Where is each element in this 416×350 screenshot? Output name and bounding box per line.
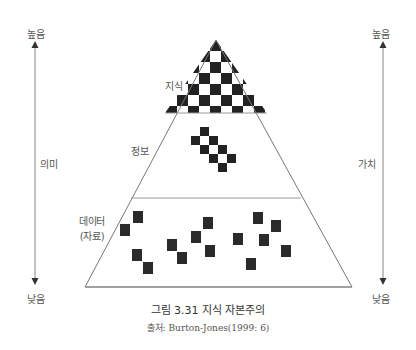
- left-axis-arrow: [32, 41, 39, 285]
- data-pattern: [120, 211, 291, 274]
- figure-caption: 그림 3.31 지식 자본주의: [0, 301, 416, 317]
- right-axis-top-label: 높음: [372, 26, 389, 41]
- right-axis-middle-label: 가치: [358, 156, 375, 171]
- layer-label-information: 정보: [131, 143, 148, 158]
- left-axis-middle-label: 의미: [40, 156, 57, 171]
- knowledge-checkerboard: [155, 40, 276, 113]
- layer-label-data-line1: 데이터: [74, 213, 110, 228]
- figure-source: 출처: Burton-Jones(1999: 6): [0, 321, 416, 334]
- information-pattern: [191, 127, 236, 172]
- layer-label-data-line2: (자료): [74, 228, 110, 243]
- right-axis-arrow: [380, 41, 387, 285]
- layer-label-knowledge: 지식: [165, 78, 182, 93]
- left-axis-top-label: 높음: [27, 26, 44, 41]
- pyramid-diagram: [0, 0, 416, 350]
- layer-label-data: 데이터 (자료): [74, 213, 110, 243]
